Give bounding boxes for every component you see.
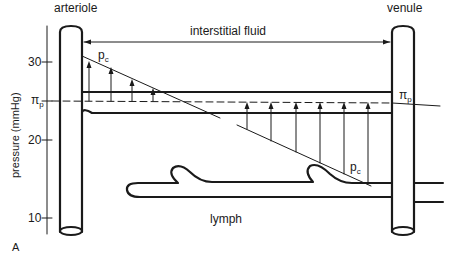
y-tick-label-20: 20	[28, 134, 41, 146]
lymph-label: lymph	[210, 213, 242, 225]
pi-p-oncotic-line	[52, 101, 392, 103]
arteriole-vessel	[60, 26, 82, 232]
pc-label-top: pc	[98, 49, 109, 61]
capillary-lower-wall	[82, 110, 392, 113]
y-tick-label-30: 30	[28, 56, 41, 68]
venule-vessel	[392, 26, 414, 232]
panel-label: A	[12, 242, 19, 253]
pc-gradient-line-lower	[237, 125, 371, 186]
arteriole-label: arteriole	[54, 2, 97, 14]
venule-opening	[392, 227, 414, 235]
pi-p-line-extension	[392, 103, 440, 106]
interstitial-fluid-label: interstitial fluid	[190, 25, 266, 37]
venule-label: venule	[387, 2, 422, 14]
pc-label-bottom: pc	[350, 161, 361, 173]
y-axis-title: pressure (mmHg)	[10, 92, 21, 178]
pi-p-axis-label: πp	[31, 94, 44, 106]
pc-gradient-line-upper	[82, 56, 220, 118]
filtration-arrows	[89, 64, 153, 101]
pi-p-right-label: πp	[399, 89, 412, 101]
y-tick-label-10: 10	[28, 212, 41, 224]
arteriole-opening	[60, 227, 82, 235]
